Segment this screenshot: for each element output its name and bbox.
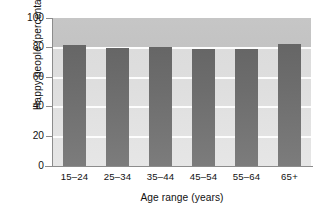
y-tick-mark-100 bbox=[46, 18, 52, 19]
bar bbox=[278, 44, 301, 166]
y-tick-label-80: 80 bbox=[4, 42, 44, 52]
plot-area bbox=[53, 18, 311, 166]
y-tick-label-20: 20 bbox=[4, 131, 44, 141]
y-tick-mark-20 bbox=[46, 136, 52, 137]
bar bbox=[235, 49, 258, 166]
y-tick-mark-80 bbox=[46, 47, 52, 48]
y-tick-mark-40 bbox=[46, 106, 52, 107]
y-tick-label-100: 100 bbox=[4, 13, 44, 23]
x-axis-line bbox=[45, 166, 313, 167]
x-tick-label: 65+ bbox=[263, 172, 317, 182]
x-axis-title: Age range (years) bbox=[53, 193, 311, 203]
bar-series bbox=[53, 18, 311, 166]
y-tick-mark-0 bbox=[46, 166, 52, 167]
y-axis-line bbox=[52, 18, 53, 167]
y-tick-label-40: 40 bbox=[4, 101, 44, 111]
bar bbox=[63, 45, 86, 166]
y-tick-label-60: 60 bbox=[4, 72, 44, 82]
bar bbox=[106, 48, 129, 166]
bar bbox=[192, 49, 215, 166]
y-tick-mark-60 bbox=[46, 77, 52, 78]
y-tick-label-0: 0 bbox=[4, 161, 44, 171]
bar bbox=[149, 47, 172, 166]
chart-figure: Happy people (percentage) 100 80 60 40 2… bbox=[0, 0, 322, 219]
